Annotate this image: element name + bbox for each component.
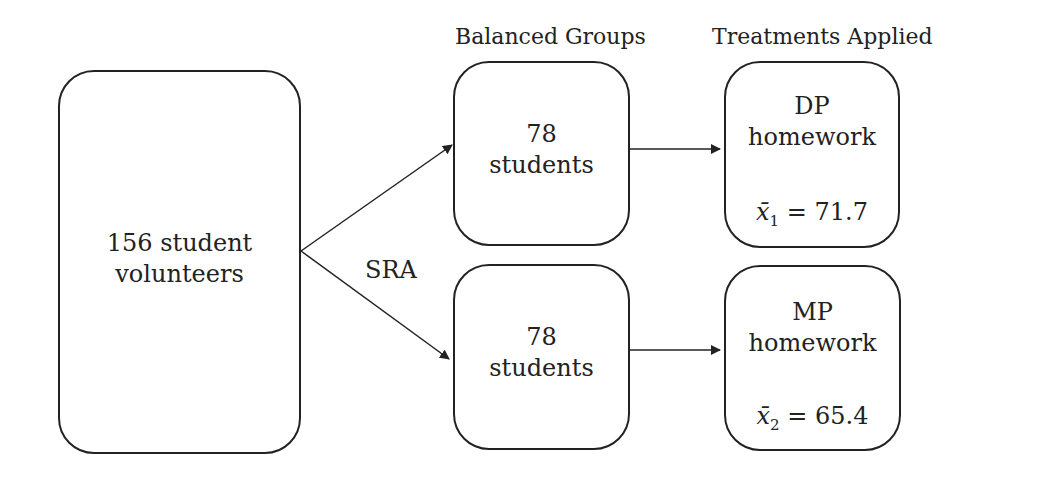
arrow-to-group-1 bbox=[301, 145, 452, 251]
treatment-2-type: homework bbox=[726, 328, 899, 359]
group-1-count: 78 bbox=[455, 119, 628, 150]
treatment-1-name: DP bbox=[726, 91, 898, 122]
treatment-1-mean: x̄1 = 71.7 bbox=[726, 197, 898, 237]
source-box: 156 student volunteers bbox=[58, 70, 301, 454]
header-treatments-applied: Treatments Applied bbox=[712, 24, 933, 49]
source-line1: 156 student bbox=[60, 228, 299, 259]
sra-label: SRA bbox=[365, 255, 417, 286]
group-box-2: 78 students bbox=[453, 264, 630, 450]
group-2-label: students bbox=[455, 353, 628, 384]
treatment-box-2: MP homework x̄2 = 65.4 bbox=[724, 265, 901, 451]
header-balanced-groups: Balanced Groups bbox=[455, 24, 646, 49]
treatment-2-mean: x̄2 = 65.4 bbox=[726, 401, 899, 441]
treatment-box-1: DP homework x̄1 = 71.7 bbox=[724, 61, 900, 248]
group-2-count: 78 bbox=[455, 322, 628, 353]
group-box-1: 78 students bbox=[453, 61, 630, 246]
group-1-label: students bbox=[455, 150, 628, 181]
treatment-1-type: homework bbox=[726, 122, 898, 153]
source-line2: volunteers bbox=[60, 259, 299, 290]
treatment-2-name: MP bbox=[726, 297, 899, 328]
